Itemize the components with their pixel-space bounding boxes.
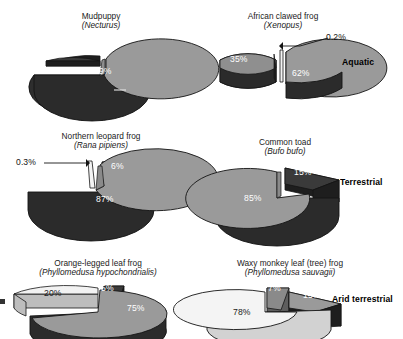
pie-chart-common-toad <box>213 158 361 244</box>
pie-value-xenopus-0-2: 0.2% <box>326 32 346 42</box>
pie-value-mudpuppy-11: 11% <box>55 43 72 53</box>
pie-title-line2: (Xenopus) <box>224 21 342 30</box>
pie-value-orange-75: 75% <box>127 303 145 313</box>
pie-value-leopard-87: 87% <box>96 194 114 204</box>
category-label-terrestrial: Terrestrial <box>340 177 383 187</box>
figure-canvas: Mudpuppy (Necturus) 11% 89% African claw… <box>0 0 403 339</box>
pie-value-leopard-0-3: 0.3% <box>16 157 36 167</box>
pie-title-waxy-monkey-leaf-tree-frog: Waxy monkey leaf (tree) frog (Phyllomedu… <box>202 259 378 278</box>
pie-value-waxy-15: 15% <box>303 290 321 300</box>
pie-title-line2: (Necturus) <box>46 21 156 30</box>
pie-title-northern-leopard-frog: Northern leopard frog (Rana pipiens) <box>38 132 164 151</box>
pie-title-orange-legged-leaf-frog: Orange-legged leaf frog (Phyllomedusa hy… <box>11 259 185 278</box>
pie-title-line2: (Phyllomedusa hypochondrialis) <box>11 268 185 277</box>
pie-chart-waxy-monkey-leaf-tree-frog <box>205 278 375 339</box>
category-label-aquatic: Aquatic <box>342 57 374 67</box>
category-label-arid-terrestrial: Arid terrestrial <box>332 294 393 304</box>
slice-35-percent <box>220 54 276 89</box>
pie-chart-orange-legged-leaf-frog <box>12 278 184 339</box>
pie-value-xenopus-62: 62% <box>292 68 310 78</box>
page-edge-mark <box>0 299 5 304</box>
pie-title-line2: (Phyllomedusa sauvagii) <box>202 268 378 277</box>
pie-chart-mudpuppy <box>30 33 175 123</box>
pie-title-mudpuppy: Mudpuppy (Necturus) <box>46 12 156 31</box>
pie-value-orange-20: 20% <box>44 288 62 298</box>
callout-leader-0-2-percent <box>276 36 332 56</box>
pie-value-toad-15: 15% <box>294 167 312 177</box>
pie-title-common-toad: Common toad (Bufo bufo) <box>234 138 336 157</box>
pie-value-xenopus-35: 35% <box>230 54 248 64</box>
pie-value-toad-85: 85% <box>244 193 262 203</box>
slice-11-percent <box>46 55 100 66</box>
callout-leader-0-3-percent <box>44 158 92 170</box>
pie-title-african-clawed-frog: African clawed frog (Xenopus) <box>224 12 342 31</box>
pie-value-orange-5: 5% <box>101 283 114 293</box>
pie-value-waxy-78: 78% <box>233 307 251 317</box>
pie-value-mudpuppy-89: 89% <box>94 66 112 76</box>
pie-value-waxy-7: 7% <box>268 283 281 293</box>
pie-value-leopard-6: 6% <box>111 161 124 171</box>
pie-title-line2: (Bufo bufo) <box>234 147 336 156</box>
